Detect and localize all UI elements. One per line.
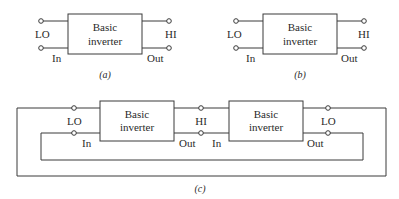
label-out: Out [147,52,164,64]
label-hi-middle: HI [195,115,207,127]
label-in: In [246,52,256,64]
terminal-lo [39,19,44,24]
box2-line2: inverter [249,121,284,133]
diagram-a: Basic inverter LO In HI Out (a) [35,14,177,81]
label-in-left: In [82,137,92,149]
terminal-hi-middle [199,106,204,111]
basic-inverter-box [263,14,337,54]
box-line2: inverter [283,35,318,47]
caption-a: (a) [99,69,111,81]
inverter-diagrams: Basic inverter LO In HI Out (a) Basic in… [0,0,399,199]
diagram-b: Basic inverter LO In HI Out (b) [227,14,370,81]
box-line1: Basic [93,21,118,33]
box-line1: Basic [288,21,313,33]
box2-line1: Basic [254,108,279,120]
box-line2: inverter [88,35,123,47]
diagram-c: Basic inverter Basic inverter LO In Out … [17,101,386,195]
terminal-lo-left [72,106,77,111]
terminal-out [362,46,367,51]
terminal-out-in-middle [199,131,204,136]
label-lo: LO [35,28,50,40]
caption-c: (c) [194,183,206,195]
caption-b: (b) [294,69,306,81]
terminal-lo [234,19,239,24]
box1-line2: inverter [120,121,155,133]
terminal-in [39,46,44,51]
label-hi: HI [358,28,370,40]
label-out: Out [341,52,358,64]
label-lo-right: LO [321,115,336,127]
label-out-middle: Out [179,137,196,149]
label-in: In [52,52,62,64]
box1-line1: Basic [125,108,150,120]
label-hi: HI [165,28,177,40]
terminal-out-right [326,131,331,136]
label-lo-left: LO [67,115,82,127]
label-lo: LO [227,28,242,40]
label-in-middle: In [212,137,222,149]
label-out-right: Out [307,137,324,149]
terminal-hi [362,19,367,24]
terminal-out [167,46,172,51]
terminal-in-left [72,131,77,136]
basic-inverter-box [68,14,142,54]
terminal-hi [167,19,172,24]
terminal-in [234,46,239,51]
terminal-lo-right [326,106,331,111]
